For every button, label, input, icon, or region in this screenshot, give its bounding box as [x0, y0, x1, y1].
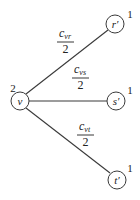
node-v-weight: 2 [10, 82, 16, 94]
edge-label-vs: cvs 2 [72, 62, 89, 92]
edge-vs-denominator: 2 [78, 78, 84, 92]
edge-vs-num-sub: vs [79, 68, 86, 77]
edge-vr-denominator: 2 [63, 42, 69, 56]
star-graph-diagram: v 2 r′ 1 s′ 1 t′ 1 cvr 2 cvs 2 cvt 2 [0, 0, 140, 200]
svg-text:cvs: cvs [74, 62, 86, 77]
node-t-weight: 1 [127, 162, 133, 174]
node-t-label: t′ [114, 174, 120, 186]
node-r-weight: 1 [127, 8, 133, 20]
node-r-label: r′ [112, 18, 119, 30]
node-v: v [11, 92, 29, 110]
svg-text:cvr: cvr [59, 26, 72, 41]
edge-label-vr: cvr 2 [57, 26, 74, 56]
node-r-prime: r′ [106, 15, 124, 33]
node-v-label: v [18, 95, 23, 107]
node-t-prime: t′ [108, 171, 126, 189]
svg-text:cvt: cvt [79, 119, 91, 134]
edge-label-vt: cvt 2 [77, 119, 94, 149]
node-s-weight: 1 [127, 84, 133, 96]
node-s-prime: s′ [107, 92, 125, 110]
edge-vt-num-sub: vt [84, 125, 91, 134]
edge-vr-num-sub: vr [64, 32, 72, 41]
edge-vt-denominator: 2 [83, 135, 89, 149]
edge-v-t [26, 108, 110, 173]
node-s-label: s′ [113, 95, 120, 107]
